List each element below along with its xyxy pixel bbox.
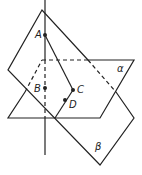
label-a: A bbox=[34, 29, 42, 40]
plane-beta-edge bbox=[8, 10, 134, 165]
diagram: A B C D α β bbox=[0, 0, 142, 175]
point-d bbox=[63, 98, 67, 102]
label-b: B bbox=[34, 83, 41, 94]
label-c: C bbox=[77, 84, 84, 95]
point-c bbox=[71, 88, 75, 92]
label-d: D bbox=[69, 99, 77, 110]
point-b bbox=[43, 86, 47, 90]
point-a bbox=[43, 33, 47, 37]
label-beta: β bbox=[94, 141, 102, 152]
label-alpha: α bbox=[117, 63, 124, 74]
planes-diagram: A B C D α β bbox=[0, 0, 142, 175]
